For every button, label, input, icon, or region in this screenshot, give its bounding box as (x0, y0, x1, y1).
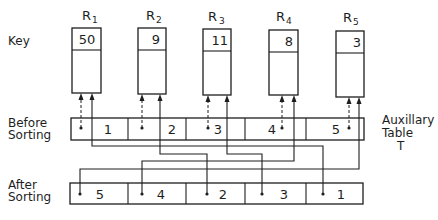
svg-text:3: 3 (219, 16, 225, 26)
arrow-up-icon (292, 95, 297, 102)
arrow-up-icon (79, 93, 84, 100)
pointer-dot (140, 126, 143, 129)
record-box-r5: 3 (336, 31, 364, 97)
aux-table-label-line2: Table (381, 126, 413, 140)
before-cell-value: 2 (168, 122, 176, 137)
record-key-value: 9 (152, 32, 160, 47)
pointer-dot (140, 192, 143, 195)
before-sorting-table: 1 2 3 4 5 (71, 118, 364, 140)
svg-text:R: R (208, 9, 217, 24)
arrow-up-icon (206, 95, 211, 102)
pointer-dot (205, 192, 208, 195)
record-key-value: 11 (211, 33, 228, 48)
record-box-r4: 8 (269, 30, 298, 95)
record-title-r4: R 4 (276, 9, 292, 26)
svg-text:R: R (276, 9, 285, 24)
svg-text:R: R (146, 8, 155, 23)
record-box-r1: 50 (72, 28, 101, 93)
arrow-up-icon (90, 93, 95, 100)
after-cell-value: 5 (96, 187, 104, 202)
record-key-value: 50 (79, 32, 96, 47)
before-cell-value: 5 (332, 122, 340, 137)
pointer-dot (206, 126, 209, 129)
arrow-up-icon (158, 94, 163, 101)
record-title-r3: R 3 (208, 9, 225, 26)
after-cell-value: 1 (337, 187, 345, 202)
before-sorting-label-line2: Sorting (8, 128, 51, 142)
arrow-up-icon (347, 97, 352, 104)
before-cell-value: 3 (214, 122, 222, 137)
pointer-dot (347, 126, 350, 129)
after-cell-value: 3 (280, 187, 288, 202)
svg-text:4: 4 (286, 16, 292, 26)
pointer-dot (260, 192, 263, 195)
after-cell-value: 2 (219, 187, 227, 202)
svg-text:5: 5 (353, 17, 359, 27)
record-title-r5: R 5 (343, 10, 359, 27)
after-sorting-table: 5 4 2 3 1 (70, 183, 363, 204)
after-cell-value: 4 (157, 187, 165, 202)
pointer-dot (321, 192, 324, 195)
key-label: Key (8, 34, 30, 48)
arrow-up-icon (225, 95, 230, 102)
record-title-r1: R 1 (82, 8, 98, 25)
record-title-r2: R 2 (146, 8, 162, 25)
pointer-dot (280, 126, 283, 129)
record-box-r3: 11 (203, 29, 231, 95)
record-sort-diagram: Key Before Sorting After Sorting Auxilla… (0, 0, 438, 220)
record-key-value: 3 (353, 35, 361, 50)
arrow-up-icon (357, 97, 362, 104)
after-sorting-label-line2: Sorting (8, 190, 51, 204)
pointer-dot (79, 126, 82, 129)
arrow-up-icon (140, 94, 145, 101)
svg-text:1: 1 (92, 15, 98, 25)
after-pointers (78, 93, 361, 196)
pointer-dot (78, 192, 81, 195)
svg-text:2: 2 (156, 15, 162, 25)
record-box-r2: 9 (138, 28, 166, 94)
record-key-value: 8 (285, 34, 293, 49)
aux-table-label-line3: T (396, 139, 405, 153)
before-cell-value: 4 (268, 122, 276, 137)
before-cell-value: 1 (104, 122, 112, 137)
arrow-up-icon (280, 95, 285, 102)
aux-table-label-line1: Auxillary (382, 113, 434, 127)
svg-text:R: R (343, 10, 352, 25)
svg-text:R: R (82, 8, 91, 23)
